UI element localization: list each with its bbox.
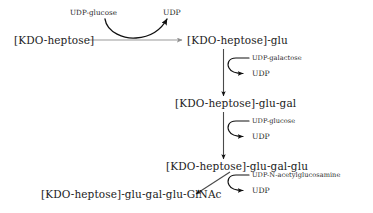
product-label-udp-3: UDP bbox=[252, 132, 270, 141]
node-label-kdo-heptose-glu-gal-glu-glnac: [KDO-heptose]-glu-gal-glu-GlNAc bbox=[41, 188, 222, 200]
reaction-1-cofactor-arc bbox=[105, 19, 167, 38]
reaction-2-cofactor-branch bbox=[228, 58, 249, 74]
reaction-3-cofactor-branch bbox=[228, 121, 249, 137]
product-label-udp-2: UDP bbox=[252, 69, 270, 78]
cofactor-label-udp-glucose-1: UDP-glucose bbox=[70, 8, 117, 17]
cofactor-label-udp-glucose-2: UDP-glucose bbox=[252, 117, 295, 125]
node-label-kdo-heptose: [KDO-heptose] bbox=[14, 34, 94, 46]
reaction-4-cofactor-branch bbox=[228, 175, 249, 191]
product-label-udp-4: UDP bbox=[252, 186, 270, 195]
reaction-pathway-diagram: [KDO-heptose] [KDO-heptose]-glu [KDO-hep… bbox=[0, 0, 373, 213]
product-label-udp-1: UDP bbox=[163, 8, 181, 17]
cofactor-label-udp-galactose: UDP-galactose bbox=[252, 54, 302, 62]
node-label-kdo-heptose-glu: [KDO-heptose]-glu bbox=[187, 34, 288, 46]
cofactor-label-udp-n-acetylglucosamine: UDP-N-acetylglucosamine bbox=[252, 171, 340, 179]
node-label-kdo-heptose-glu-gal: [KDO-heptose]-glu-gal bbox=[175, 97, 296, 109]
